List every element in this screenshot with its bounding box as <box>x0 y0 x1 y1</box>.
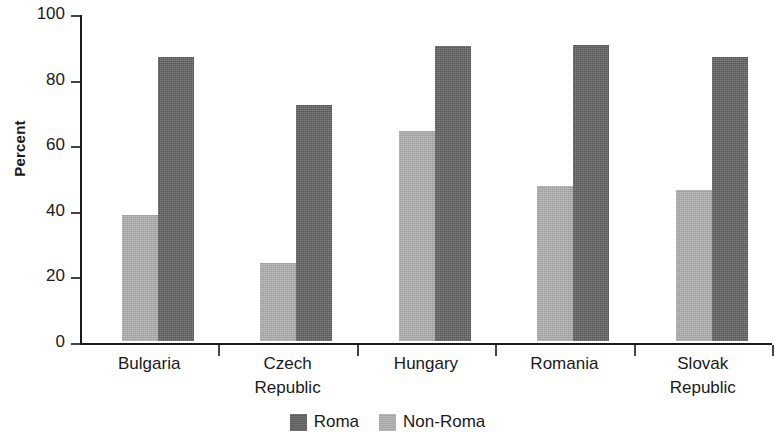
y-axis-line <box>80 15 82 344</box>
legend-swatch-roma <box>290 414 307 431</box>
x-axis-label-line: Czech <box>218 352 356 376</box>
x-tick-mark <box>772 345 774 356</box>
y-tick-mark: 60 <box>71 146 80 148</box>
bar <box>435 46 471 341</box>
x-axis-line <box>80 343 772 345</box>
x-axis-label-line: Romania <box>495 352 633 376</box>
bar-group <box>399 13 471 341</box>
x-axis-label-slovak-republic: SlovakRepublic <box>634 352 772 400</box>
bar <box>537 186 573 341</box>
bar <box>573 45 609 341</box>
bar <box>158 57 194 341</box>
y-tick-mark: 40 <box>71 212 80 214</box>
bar <box>122 215 158 341</box>
bar <box>399 131 435 341</box>
bar <box>676 190 712 341</box>
bar-group <box>676 13 748 341</box>
bar-group <box>122 13 194 341</box>
legend-label: Non-Roma <box>403 412 485 432</box>
x-axis-label-line: Slovak <box>634 352 772 376</box>
bar <box>296 105 332 341</box>
y-tick-label: 0 <box>56 332 65 352</box>
legend-swatch-non-roma <box>379 414 396 431</box>
bar <box>712 57 748 341</box>
x-axis-label-line: Republic <box>634 376 772 400</box>
bar-group <box>537 13 609 341</box>
plot-area: 020406080100 <box>80 15 772 343</box>
y-tick-label: 60 <box>46 135 65 155</box>
y-axis-title: Percent <box>11 104 28 194</box>
x-axis-label-line: Bulgaria <box>80 352 218 376</box>
y-tick-mark: 80 <box>71 81 80 83</box>
bar-chart: Percent 020406080100 BulgariaCzechRepubl… <box>0 0 775 444</box>
legend-label: Roma <box>314 412 359 432</box>
y-tick-label: 80 <box>46 70 65 90</box>
x-axis-label-line: Republic <box>218 376 356 400</box>
legend-item[interactable]: Roma <box>290 412 359 432</box>
x-axis-label-hungary: Hungary <box>357 352 495 376</box>
x-axis-label-czech-republic: CzechRepublic <box>218 352 356 400</box>
chart-legend: RomaNon-Roma <box>0 412 775 432</box>
bar-group <box>260 13 332 341</box>
x-axis-label-line: Hungary <box>357 352 495 376</box>
y-tick-mark: 20 <box>71 277 80 279</box>
bar <box>260 263 296 341</box>
y-tick-mark: 100 <box>71 15 80 17</box>
y-tick-label: 100 <box>37 4 65 24</box>
x-axis-label-romania: Romania <box>495 352 633 376</box>
legend-item[interactable]: Non-Roma <box>379 412 485 432</box>
x-axis-label-bulgaria: Bulgaria <box>80 352 218 376</box>
y-tick-label: 40 <box>46 201 65 221</box>
y-tick-mark: 0 <box>71 343 80 345</box>
y-tick-label: 20 <box>46 266 65 286</box>
